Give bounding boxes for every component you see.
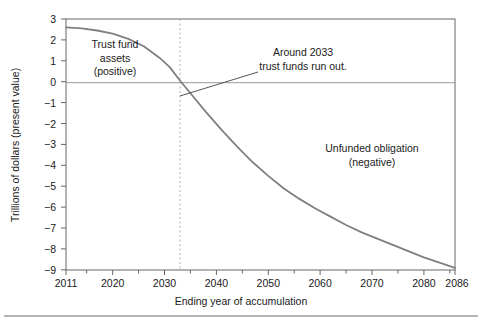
y-tick-label: −2 [44,118,56,130]
annotation-line: trust funds run out. [259,60,347,72]
y-tick-label: 0 [50,76,56,88]
annotation-line: Around 2033 [273,46,333,58]
x-axis-title: Ending year of accumulation [175,295,308,307]
annotation-line: (positive) [94,65,137,77]
y-tick-label: 3 [50,13,56,25]
x-tick-label: 2030 [153,277,177,289]
x-tick-label: 2040 [205,277,229,289]
x-tick-label: 2011 [55,277,78,289]
y-tick-label: −6 [44,201,56,213]
x-tick-label: 2050 [257,277,281,289]
x-tick-label: 2060 [308,277,332,289]
y-axis-title: Trillions of dollars (present value) [9,68,21,222]
x-tick-label: 2086 [445,277,469,289]
x-axis-ticks [66,270,455,275]
annotation-line: Trust fund [92,38,139,50]
y-tick-label: −8 [44,243,56,255]
y-axis-tick-labels: 3 2 1 0 −1 −2 −3 −4 −5 −6 −7 −8 −9 [44,13,56,276]
x-axis-tick-labels: 2011 2020 2030 2040 2050 2060 2070 2080 … [55,277,469,289]
x-tick-label: 2020 [101,277,125,289]
chart-figure: 3 2 1 0 −1 −2 −3 −4 −5 −6 −7 −8 −9 [0,0,482,322]
y-tick-label: −7 [44,222,56,234]
y-tick-label: −9 [44,264,56,276]
annotation-line: Unfunded obligation [325,142,419,154]
trust-fund-assets-annotation: Trust fund assets (positive) [92,38,139,77]
y-axis-ticks [61,19,66,270]
annotation-line: (negative) [349,156,396,168]
trust-fund-exhaustion-annotation: Around 2033 trust funds run out. [259,46,347,72]
chart-canvas: 3 2 1 0 −1 −2 −3 −4 −5 −6 −7 −8 −9 [0,0,482,322]
y-tick-label: −5 [44,180,56,192]
x-tick-label: 2070 [360,277,384,289]
y-tick-label: −3 [44,138,56,150]
y-tick-label: 1 [50,55,56,67]
callout-leader-line [180,72,258,96]
x-tick-label: 2080 [412,277,436,289]
y-tick-label: −4 [44,159,56,171]
annotation-line: assets [100,52,130,64]
y-tick-label: 2 [50,34,56,46]
unfunded-obligation-annotation: Unfunded obligation (negative) [325,142,419,168]
y-tick-label: −1 [44,97,56,109]
